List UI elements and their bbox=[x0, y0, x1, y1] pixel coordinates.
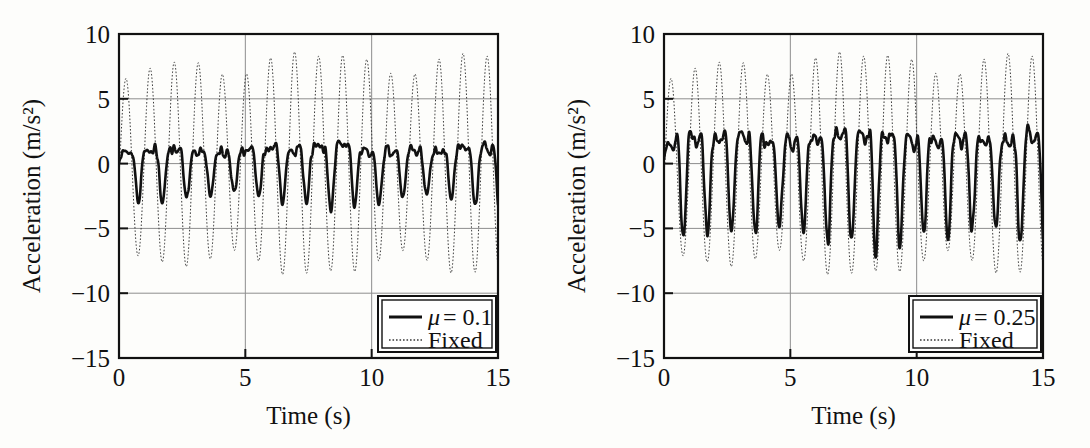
x-tick-label: 0 bbox=[658, 364, 671, 391]
x-tick-label: 10 bbox=[359, 364, 384, 391]
chart-svg-left: −15−10−50510051015Time (s)Acceleration (… bbox=[0, 0, 545, 448]
y-tick-label: −5 bbox=[83, 215, 110, 242]
chart-svg-right: −15−10−50510051015Time (s)Acceleration (… bbox=[545, 0, 1090, 448]
legend-label-fixed: Fixed bbox=[428, 327, 483, 353]
y-tick-label: −10 bbox=[616, 280, 655, 307]
x-axis-title: Time (s) bbox=[811, 402, 896, 430]
y-tick-label: 5 bbox=[643, 86, 656, 113]
x-tick-label: 15 bbox=[1031, 364, 1056, 391]
chart-panel-left: −15−10−50510051015Time (s)Acceleration (… bbox=[0, 0, 545, 448]
x-axis-title: Time (s) bbox=[266, 402, 351, 430]
y-tick-label: −15 bbox=[71, 345, 110, 372]
legend[interactable]: μ= 0.25Fixed bbox=[909, 296, 1041, 353]
legend-label-fixed: Fixed bbox=[959, 327, 1014, 353]
y-tick-label: 0 bbox=[98, 151, 111, 178]
x-tick-label: 0 bbox=[113, 364, 126, 391]
y-axis-title: Acceleration (m/s²) bbox=[18, 99, 46, 293]
series-line-isolated bbox=[664, 125, 1043, 258]
x-tick-label: 5 bbox=[239, 364, 252, 391]
x-tick-label: 10 bbox=[904, 364, 929, 391]
x-tick-label: 5 bbox=[784, 364, 797, 391]
y-axis-title: Acceleration (m/s²) bbox=[563, 99, 591, 293]
y-tick-label: 10 bbox=[85, 21, 110, 48]
series-line-isolated bbox=[119, 141, 498, 212]
y-tick-label: 5 bbox=[98, 86, 111, 113]
chart-panel-right: −15−10−50510051015Time (s)Acceleration (… bbox=[545, 0, 1090, 448]
y-tick-label: −15 bbox=[616, 345, 655, 372]
y-tick-label: 0 bbox=[643, 151, 656, 178]
y-tick-label: −10 bbox=[71, 280, 110, 307]
y-tick-label: −5 bbox=[628, 215, 655, 242]
x-tick-label: 15 bbox=[486, 364, 511, 391]
y-tick-label: 10 bbox=[630, 21, 655, 48]
figure-canvas: −15−10−50510051015Time (s)Acceleration (… bbox=[0, 0, 1090, 448]
legend[interactable]: μ= 0.1Fixed bbox=[378, 296, 496, 353]
